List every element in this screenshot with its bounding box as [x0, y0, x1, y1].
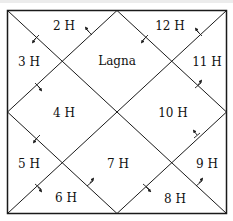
house-label-h9: 9 H	[196, 157, 218, 171]
house-label-h2: 2 H	[53, 19, 75, 33]
horoscope-chart	[0, 0, 233, 221]
house-label-h11: 11 H	[192, 55, 222, 69]
house-label-h10: 10 H	[158, 106, 188, 120]
house-label-lagna: Lagna	[98, 54, 136, 68]
house-label-h6: 6 H	[55, 191, 77, 205]
house-label-h3: 3 H	[18, 55, 40, 69]
house-label-h12: 12 H	[155, 19, 185, 33]
house-label-h5: 5 H	[18, 157, 40, 171]
house-label-h7: 7 H	[107, 157, 129, 171]
house-label-h4: 4 H	[53, 106, 75, 120]
house-label-h8: 8 H	[164, 192, 186, 206]
